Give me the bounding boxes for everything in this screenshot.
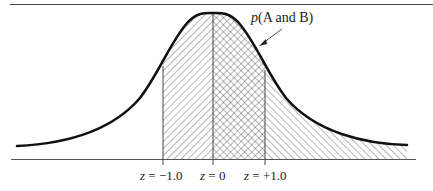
z-value: = +1.0	[249, 168, 286, 183]
z-label-minus1: z = −1.0	[139, 168, 182, 183]
z-value: = 0	[205, 168, 225, 183]
z-label-zero: z = 0	[199, 168, 225, 183]
z-label-plus1: z = +1.0	[243, 168, 286, 183]
normal-curve-figure: p(A and B) z = −1.0 z = 0 z = +1.0	[0, 0, 433, 191]
annotation-label: p(A and B)	[250, 10, 314, 26]
annotation-arrow-head-icon	[259, 39, 267, 46]
annotation-label-var: p	[250, 10, 258, 25]
z-value: = −1.0	[145, 168, 182, 183]
annotation-label-rest: (A and B)	[258, 10, 314, 26]
